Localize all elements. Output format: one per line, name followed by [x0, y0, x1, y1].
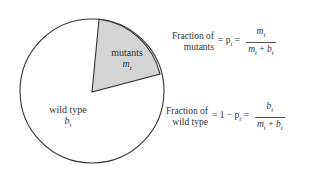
mutants-label: mutants mt: [100, 47, 154, 74]
mutants-fraction-equation: Fraction of mutants = pt = mt mt + bt: [172, 26, 276, 59]
wild-type-label: wild type bt: [38, 104, 98, 131]
wild-type-fraction-equation: Fraction of wild type = 1 − pt = bt mt +…: [166, 101, 285, 134]
